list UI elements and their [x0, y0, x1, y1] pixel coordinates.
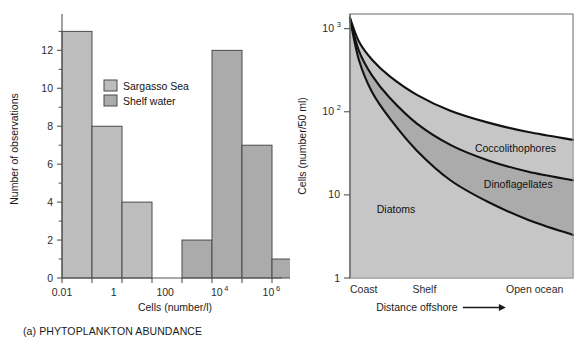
bar-shelf-water-7	[272, 259, 290, 278]
y-tick-label-10: 10	[41, 82, 53, 94]
band-label-coccolithophores: Coccolithophores	[475, 142, 556, 154]
y-tick-exponent-100: 2	[337, 103, 341, 112]
x-tick-label-open-ocean: Open ocean	[506, 283, 563, 295]
bar-sargasso-sea-1	[92, 126, 122, 278]
panel-phytoplankton-abundance: 0246810120.011100104106Cells (number/l)N…	[0, 0, 290, 355]
bar-sargasso-sea-0	[62, 31, 92, 278]
y-tick-label-12: 12	[41, 44, 53, 56]
bar-shelf-water-6	[242, 145, 272, 278]
y-axis-title: Cells (number/50 ml)	[296, 97, 308, 194]
x-tick-label-group-3: 104	[211, 284, 229, 299]
y-tick-label-8: 8	[47, 120, 53, 132]
y-tick-label-100: 10	[322, 105, 334, 117]
legend-swatch-0	[104, 80, 117, 91]
x-tick-exponent-3: 4	[224, 284, 228, 293]
x-axis-title: Cells (number/l)	[138, 301, 212, 313]
band-label-dinoflagellates: Dinoflagellates	[484, 178, 553, 190]
y-tick-label-group-100: 102	[322, 103, 341, 117]
x-tick-label-group-2: 100	[156, 286, 174, 298]
x-tick-label-4: 10	[263, 286, 275, 298]
y-tick-label-1000: 10	[322, 22, 334, 34]
legend: Sargasso SeaShelf water	[104, 80, 189, 107]
x-tick-label-group-4: 106	[263, 284, 281, 299]
y-tick-label-4: 4	[47, 196, 53, 208]
distance-offshore-arrowhead	[499, 304, 506, 311]
x-tick-label-coast: Coast	[350, 283, 378, 295]
bar-shelf-water-4	[182, 240, 212, 278]
bar-sargasso-sea-2	[122, 202, 152, 278]
panel-phytoplankton-composition: DiatomsDinoflagellatesCoccolithophores11…	[290, 0, 577, 355]
y-tick-label-6: 6	[47, 158, 53, 170]
x-axis-title: Distance offshore	[376, 301, 458, 313]
caption-panel-a: (a) PHYTOPLANKTON ABUNDANCE	[23, 325, 202, 337]
y-tick-label-group-10: 10	[328, 188, 340, 200]
legend-label-0: Sargasso Sea	[123, 80, 189, 92]
x-tick-label-1: 1	[111, 286, 117, 298]
x-tick-label-3: 10	[211, 286, 223, 298]
y-tick-label-group-1000: 103	[322, 20, 341, 34]
legend-swatch-1	[104, 95, 117, 106]
y-tick-label-1: 1	[334, 272, 340, 284]
legend-label-1: Shelf water	[123, 95, 176, 107]
x-tick-exponent-4: 6	[276, 284, 280, 293]
x-tick-label-2: 100	[156, 286, 174, 298]
y-axis-title: Number of observations	[8, 93, 20, 204]
x-tick-label-0: 0.01	[52, 286, 73, 298]
x-tick-label-group-0: 0.01	[52, 286, 73, 298]
abundance-bar-chart: 0246810120.011100104106Cells (number/l)N…	[0, 0, 290, 320]
composition-area-chart: DiatomsDinoflagellatesCoccolithophores11…	[290, 0, 577, 320]
bar-shelf-water-5	[212, 50, 242, 278]
y-tick-exponent-1000: 3	[337, 20, 341, 29]
y-tick-label-10: 10	[328, 188, 340, 200]
x-tick-label-shelf: Shelf	[412, 283, 436, 295]
x-tick-label-group-1: 1	[111, 286, 117, 298]
y-tick-label-2: 2	[47, 234, 53, 246]
band-label-diatoms: Diatoms	[377, 203, 416, 215]
y-tick-label-group-1: 1	[334, 272, 340, 284]
y-tick-label-0: 0	[47, 272, 53, 284]
